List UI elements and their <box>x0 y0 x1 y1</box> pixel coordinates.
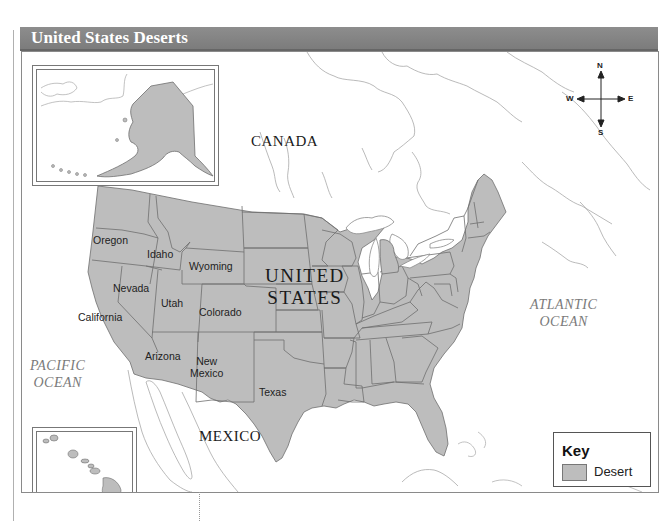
map-title-bar: United States Deserts <box>20 27 658 51</box>
page-margin-rule <box>13 30 14 521</box>
state-label-new-mexico: New Mexico <box>190 355 223 379</box>
state-label-oregon: Oregon <box>93 234 128 246</box>
key-item-desert: Desert <box>594 464 632 479</box>
hawaii-map <box>33 428 136 493</box>
hawaii-inset <box>32 427 137 493</box>
map-title: United States Deserts <box>31 28 188 48</box>
us-landmass <box>88 174 506 462</box>
state-label-wyoming: Wyoming <box>189 260 233 272</box>
state-label-colorado: Colorado <box>199 306 242 318</box>
ocean-label-pacific: PACIFIC OCEAN <box>30 357 85 391</box>
country-label-mexico: MEXICO <box>199 428 261 445</box>
dotted-guide-line <box>199 492 200 521</box>
alaska-shape <box>97 82 213 177</box>
map-key: Key Desert <box>553 432 651 487</box>
compass-east: E <box>628 94 633 103</box>
compass-west: W <box>566 94 574 103</box>
alaska-inset <box>32 65 219 186</box>
ocean-label-atlantic: ATLANTIC OCEAN <box>530 296 597 330</box>
country-label-united-states: UNITED STATES <box>265 265 345 309</box>
state-label-texas: Texas <box>259 386 286 398</box>
state-label-arizona: Arizona <box>145 350 181 362</box>
country-label-canada: CANADA <box>251 133 318 150</box>
compass-north: N <box>597 61 603 70</box>
map-frame: Oregon Idaho Wyoming Nevada Utah Colorad… <box>21 51 659 493</box>
state-label-nevada: Nevada <box>113 282 149 294</box>
alaska-map <box>33 66 218 185</box>
compass-rose: N S W E <box>566 61 636 139</box>
desert-swatch <box>562 464 587 481</box>
compass-south: S <box>598 128 603 137</box>
state-label-idaho: Idaho <box>147 248 173 260</box>
state-label-california: California <box>78 311 122 323</box>
key-title: Key <box>562 442 590 459</box>
state-label-utah: Utah <box>161 297 183 309</box>
